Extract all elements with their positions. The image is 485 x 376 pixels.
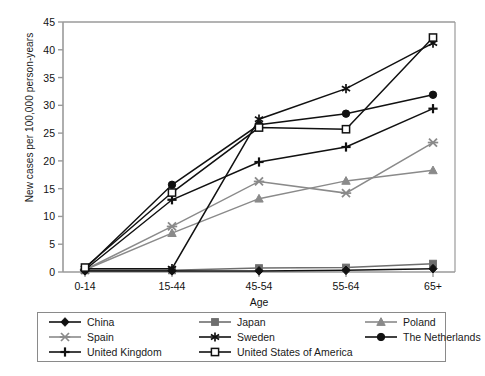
y-tick-label: 35 (43, 72, 55, 84)
legend-marker-asterisk-icon (198, 330, 232, 344)
y-tick-label: 45 (43, 16, 55, 28)
legend-marker-filled-triangle-icon (364, 315, 398, 329)
legend-item-united-kingdom[interactable]: United Kingdom (48, 345, 198, 359)
x-tick-label: 0-14 (74, 280, 95, 292)
y-tick-label: 10 (43, 210, 55, 222)
x-tick-label: 65+ (424, 280, 442, 292)
y-tick-label: 40 (43, 44, 55, 56)
x-tick-label: 15-44 (159, 280, 186, 292)
line-chart-plot: 0510152025303540450-1415-4445-5455-6465+… (0, 0, 485, 310)
x-axis-title: Age (250, 296, 269, 308)
legend-item-spain[interactable]: Spain (48, 330, 198, 344)
legend-marker-filled-diamond-icon (48, 315, 82, 329)
legend-label: Japan (237, 316, 266, 328)
chart-figure: New cases per 100,000 person-years 05101… (0, 0, 485, 376)
legend-label: United Kingdom (87, 346, 162, 358)
y-tick-label: 0 (49, 266, 55, 278)
axis-labels-layer: 0510152025303540450-1415-4445-5455-6465+… (43, 16, 442, 308)
legend-item-japan[interactable]: Japan (198, 315, 364, 329)
legend-marker-filled-square-icon (198, 315, 232, 329)
legend-item-sweden[interactable]: Sweden (198, 330, 364, 344)
y-tick-label: 20 (43, 155, 55, 167)
y-tick-label: 15 (43, 183, 55, 195)
legend-label: United States of America (237, 346, 353, 358)
series-sweden (81, 39, 437, 274)
legend-marker-x-dash-icon (48, 330, 82, 344)
legend-item-china[interactable]: China (48, 315, 198, 329)
legend-label: Sweden (237, 331, 275, 343)
legend-item-poland[interactable]: Poland (364, 315, 481, 329)
y-tick-label: 30 (43, 99, 55, 111)
legend-label: The Netherlands (403, 331, 481, 343)
y-tick-label: 5 (49, 238, 55, 250)
y-tick-label: 25 (43, 127, 55, 139)
legend-marker-plus-icon (48, 345, 82, 359)
chart-legend: ChinaJapanPolandSpainSwedenThe Netherlan… (37, 312, 446, 362)
series-layer (80, 34, 438, 275)
legend-item-united-states-of-america[interactable]: United States of America (198, 345, 364, 359)
legend-label: China (87, 316, 114, 328)
legend-marker-filled-circle-icon (364, 330, 398, 344)
legend-label: Poland (403, 316, 436, 328)
legend-label: Spain (87, 331, 114, 343)
legend-item-the-netherlands[interactable]: The Netherlands (364, 330, 481, 344)
x-tick-label: 45-54 (246, 280, 273, 292)
x-tick-label: 55-64 (333, 280, 360, 292)
legend-marker-open-square-icon (198, 345, 232, 359)
